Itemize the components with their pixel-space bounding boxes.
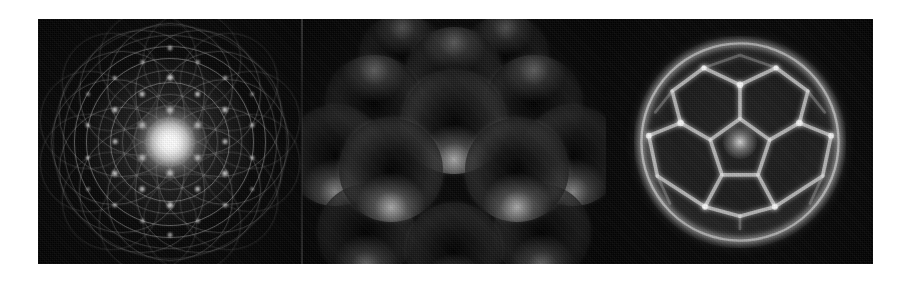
- panel-cluster-description: Thirteen overlapping rim-lit spheres in …: [0, 0, 1, 1]
- diffraction-spot: [248, 154, 256, 162]
- diffraction-spot: [85, 186, 92, 193]
- cage-center-node: [723, 125, 757, 159]
- diffraction-stage: [52, 24, 288, 260]
- panel-cluster: [302, 19, 606, 264]
- cluster-sphere: [465, 118, 569, 222]
- diffraction-spot: [110, 137, 119, 146]
- panel-diffraction: [38, 19, 302, 264]
- diffraction-spot: [249, 90, 256, 97]
- diffraction-spot: [84, 154, 92, 162]
- diffraction-spot: [84, 122, 92, 130]
- cage-stage: [634, 36, 846, 248]
- diffraction-spot: [111, 201, 119, 209]
- diffraction-spot: [165, 200, 175, 210]
- diffraction-spot: [165, 73, 175, 83]
- panel-cage: [606, 19, 873, 264]
- diffraction-spot: [138, 89, 147, 98]
- diffraction-core: [133, 105, 207, 179]
- diffraction-spot: [221, 74, 229, 82]
- figure-root: Concentric and overlapping circle famili…: [0, 0, 910, 287]
- panel-strip: [38, 19, 873, 264]
- cluster-sphere: [339, 118, 443, 222]
- diffraction-spot: [193, 89, 202, 98]
- diffraction-spot: [138, 185, 147, 194]
- diffraction-spot: [221, 137, 230, 146]
- cluster-stage: [316, 23, 592, 261]
- diffraction-spot: [111, 74, 119, 82]
- diffraction-spot: [166, 231, 174, 239]
- diffraction-spot: [248, 122, 256, 130]
- diffraction-spot: [249, 186, 256, 193]
- diffraction-spot: [193, 185, 202, 194]
- diffraction-spot: [221, 201, 229, 209]
- diffraction-spot: [166, 44, 174, 52]
- panel-diffraction-description: Concentric and overlapping circle famili…: [0, 0, 1, 1]
- panel-cage-description: A near-spherical glowing polyhedral cage…: [0, 0, 1, 1]
- diffraction-spot: [85, 90, 92, 97]
